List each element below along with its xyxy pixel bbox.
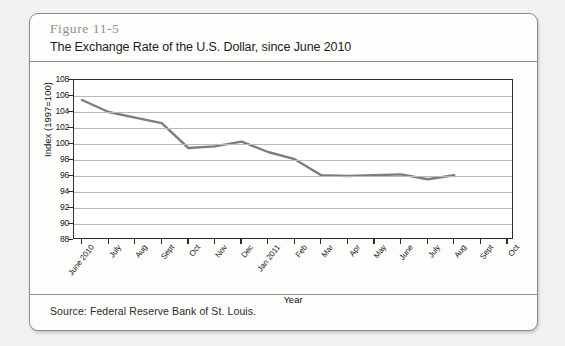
x-tick-label: Apr — [347, 243, 362, 258]
y-tick-label: 100 — [43, 138, 69, 148]
gridline — [74, 208, 512, 209]
figure-footer: Source: Federal Reserve Bank of St. Loui… — [30, 294, 537, 330]
page-background: Figure 11-5 The Exchange Rate of the U.S… — [0, 0, 565, 346]
figure-source-note: Source: Federal Reserve Bank of St. Loui… — [50, 305, 537, 317]
x-tick-label: Sept — [478, 243, 495, 261]
y-tick-label: 88 — [43, 234, 69, 244]
x-tick-label: Mar — [320, 243, 335, 259]
gridline — [74, 112, 512, 113]
x-tick-label: Aug — [453, 243, 469, 260]
x-tick-label: June — [398, 243, 416, 262]
x-tick-label: Sept — [159, 243, 176, 261]
figure-title: The Exchange Rate of the U.S. Dollar, si… — [50, 38, 537, 56]
x-tick-label: Oct — [188, 243, 203, 258]
gridline — [74, 176, 512, 177]
x-tick-label: May — [372, 243, 388, 260]
y-tick-label: 104 — [43, 106, 69, 116]
gridline — [74, 224, 512, 225]
y-tick-label: 106 — [43, 90, 69, 100]
x-tick-label: June 2010 — [67, 243, 97, 277]
gridline — [74, 192, 512, 193]
x-axis-tick-labels: June 2010JulyAugSeptOctNovDecJan 2011Feb… — [73, 243, 513, 293]
x-tick-label: Oct — [507, 243, 522, 258]
figure-number: Figure 11-5 — [50, 21, 537, 36]
x-tick-label: July — [107, 243, 123, 259]
y-axis-tick-labels: 108106104102100989694929088 — [39, 79, 69, 239]
x-tick-label: Aug — [134, 243, 150, 260]
x-tick-label: Jan 2011 — [256, 243, 283, 273]
x-tick-label: Feb — [293, 243, 308, 259]
gridline — [74, 128, 512, 129]
y-tick-label: 102 — [43, 122, 69, 132]
chart-area: Index (1997=100) 10810610410210098969492… — [30, 62, 537, 294]
gridline — [74, 144, 512, 145]
x-tick-label: Nov — [213, 243, 229, 260]
figure-box: Figure 11-5 The Exchange Rate of the U.S… — [29, 13, 538, 331]
y-tick-label: 108 — [43, 74, 69, 84]
y-tick-label: 98 — [43, 154, 69, 164]
y-tick-label: 90 — [43, 218, 69, 228]
plot-frame — [73, 79, 513, 239]
gridline — [74, 96, 512, 97]
figure-header: Figure 11-5 The Exchange Rate of the U.S… — [30, 14, 537, 62]
x-tick-label: July — [426, 243, 442, 259]
y-tick-label: 96 — [43, 170, 69, 180]
y-tick-label: 92 — [43, 202, 69, 212]
x-tick-label: Dec — [240, 243, 256, 260]
y-tick-label: 94 — [43, 186, 69, 196]
gridline — [74, 160, 512, 161]
